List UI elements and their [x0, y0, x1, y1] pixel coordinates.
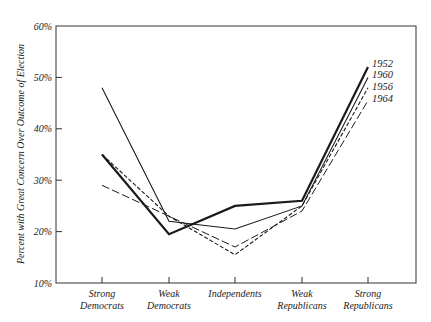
series-lines [102, 67, 368, 255]
x-category-label: WeakRepublicans [276, 288, 327, 311]
y-tick-label: 50% [34, 72, 52, 83]
series-label-1960: 1960 [372, 69, 394, 80]
plot-frame [56, 26, 416, 283]
y-tick-label: 10% [34, 278, 52, 289]
x-category-label: StrongDemocrats [79, 288, 124, 311]
y-tick-label: 40% [34, 123, 52, 134]
series-label-1964: 1964 [372, 93, 394, 104]
y-tick-label: 20% [34, 226, 52, 237]
y-axis-ticks: 10%20%30%40%50%60% [33, 21, 62, 289]
x-category-label: WeakDemocrats [146, 288, 191, 311]
series-label-1956: 1956 [372, 81, 394, 92]
x-category-label: StrongRepublicans [342, 288, 393, 311]
y-tick-label: 60% [34, 21, 52, 32]
plot-border [56, 26, 416, 283]
series-labels: 1952196019561964 [372, 58, 394, 104]
x-axis-ticks: StrongDemocratsWeakDemocratsIndependents… [79, 277, 393, 311]
y-axis-label: Percent with Great Concern Over Outcome … [15, 44, 26, 265]
line-chart: 10%20%30%40%50%60% StrongDemocratsWeakDe… [0, 0, 431, 322]
series-line-1956 [102, 88, 368, 255]
y-tick-label: 30% [33, 175, 52, 186]
x-category-label: Independents [207, 288, 261, 299]
series-label-1952: 1952 [372, 58, 394, 69]
series-line-1964 [102, 101, 368, 248]
series-line-1952 [102, 67, 368, 234]
